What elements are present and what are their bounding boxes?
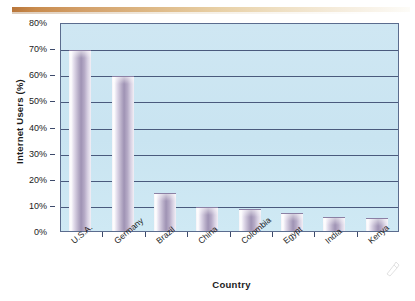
x-axis-tick-mark <box>357 232 358 237</box>
y-axis-tick-mark <box>50 128 55 129</box>
bar-chart-figure: Internet Users (%) 80%70%60%50%40%30%20%… <box>0 14 415 301</box>
y-axis-tick-label: 10% <box>29 200 47 212</box>
plot-area <box>60 23 399 232</box>
x-axis-tick-mark <box>145 232 146 237</box>
y-axis-tick-label: 60% <box>29 69 47 81</box>
x-axis-tick-mark <box>314 232 315 237</box>
x-axis-category-labels: U.S.A.GermanyBrazilChinaColombiaEgyptInd… <box>60 238 405 282</box>
y-axis-tick-mark <box>50 154 55 155</box>
bar <box>112 76 134 231</box>
x-axis-tick-mark <box>102 232 103 237</box>
y-axis-tick-label: 80% <box>29 17 47 29</box>
y-axis-tick-label: 20% <box>29 174 47 186</box>
y-axis-tick-mark <box>50 206 55 207</box>
y-axis-tick-label: 30% <box>29 148 47 160</box>
x-axis-tick-mark <box>230 232 231 237</box>
y-axis-tick-labels: 80%70%60%50%40%30%20%10%0% <box>17 23 55 232</box>
y-axis-tick-label: 40% <box>29 122 47 134</box>
x-axis-title-wrap: Country <box>0 279 415 290</box>
y-axis-tick-mark <box>50 180 55 181</box>
y-axis-tick-label: 70% <box>29 43 47 55</box>
bars-group <box>61 24 398 231</box>
y-axis-tick-label: 0% <box>34 226 47 238</box>
y-axis-tick-mark <box>50 49 55 50</box>
y-axis-tick-mark <box>50 75 55 76</box>
x-axis-tick-mark <box>272 232 273 237</box>
bar <box>69 50 91 231</box>
y-axis-tick-mark <box>50 101 55 102</box>
x-axis-title: Country <box>164 279 251 290</box>
y-axis-tick-label: 50% <box>29 95 47 107</box>
x-axis-tick-mark <box>187 232 188 237</box>
scan-artifact-icon <box>385 261 403 277</box>
bar <box>154 193 176 231</box>
